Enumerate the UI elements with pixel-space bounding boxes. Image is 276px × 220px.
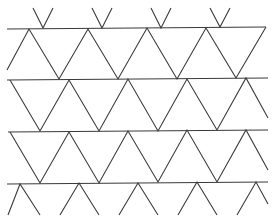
band-4-peak-1 bbox=[60, 183, 99, 215]
band-1-zigzag bbox=[7, 27, 266, 79]
horizontal-line-3 bbox=[8, 130, 268, 132]
horizontal-line-1 bbox=[7, 27, 266, 29]
band-2-zigzag bbox=[10, 78, 268, 131]
top-partial-vs-1 bbox=[33, 8, 53, 28]
top-partial-vs-4 bbox=[210, 8, 230, 27]
top-partial-vs-3 bbox=[151, 8, 171, 28]
band-4-peak-3 bbox=[178, 182, 217, 215]
pattern-svg bbox=[0, 0, 276, 220]
triangle-tessellation-figure bbox=[0, 0, 276, 220]
top-partial-vs-2 bbox=[92, 8, 112, 28]
horizontal-line-2 bbox=[7, 78, 268, 80]
band-3-zigzag bbox=[10, 130, 268, 183]
band-4-peak-4 bbox=[237, 182, 268, 215]
band-4-peak-2 bbox=[119, 183, 158, 215]
band-4-zigzag bbox=[8, 184, 40, 215]
